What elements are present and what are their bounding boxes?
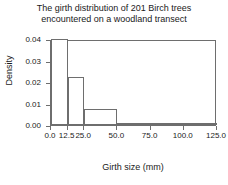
x-axis: 0.012.525.050.075.0100.0125.0 (50, 126, 216, 166)
x-tick-mark (216, 126, 217, 130)
histogram-bar (117, 123, 150, 125)
histogram-bar (68, 77, 85, 125)
y-tick-label: 0.03 (25, 58, 41, 66)
x-tick-label: 100.0 (173, 132, 193, 140)
x-tick-mark (183, 126, 184, 130)
x-tick-mark (116, 126, 117, 130)
x-tick-mark (150, 126, 151, 130)
x-tick-label: 75.0 (142, 132, 158, 140)
y-tick-label: 0.04 (25, 36, 41, 44)
y-axis-title: Density (5, 41, 14, 101)
x-tick-label: 50.0 (109, 132, 125, 140)
y-tick-label: 0.00 (25, 122, 41, 130)
x-tick-label: 0.0 (44, 132, 55, 140)
histogram-figure: The girth distribution of 201 Birch tree… (0, 0, 228, 185)
x-tick-mark (83, 126, 84, 130)
x-tick-mark (67, 126, 68, 130)
bar-series (51, 41, 215, 125)
plot-area (50, 40, 216, 126)
histogram-bar (151, 123, 184, 125)
histogram-bar (184, 123, 217, 125)
y-tick-label: 0.02 (25, 79, 41, 87)
y-tick-label: 0.01 (25, 101, 41, 109)
x-axis-title: Girth size (mm) (50, 163, 216, 172)
x-tick-label: 12.5 (59, 132, 75, 140)
histogram-bar (84, 109, 117, 125)
x-tick-label: 25.0 (75, 132, 91, 140)
x-tick-label: 125.0 (206, 132, 226, 140)
histogram-bar (51, 39, 68, 125)
x-tick-mark (50, 126, 51, 130)
